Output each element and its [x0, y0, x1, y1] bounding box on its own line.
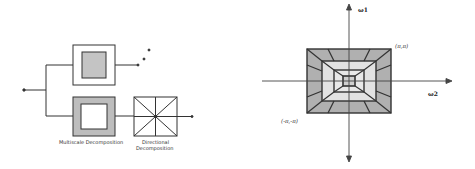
corner-label-bottom-left: (-π,-π) — [281, 118, 298, 124]
directional-filter-box — [134, 97, 192, 136]
filter-bank-diagram — [23, 45, 193, 136]
horizontal-arrowhead — [446, 79, 452, 84]
bandpass-filter-box — [73, 97, 115, 136]
vertical-arrowhead-down — [347, 156, 352, 162]
omega2-label: ω2 — [428, 90, 438, 97]
figure-canvas: Multiscale Decomposition Directional Dec… — [0, 0, 475, 169]
lowpass-output-node — [137, 64, 139, 66]
vertical-arrowhead-up — [347, 4, 352, 10]
directional-label-line2: Decomposition — [136, 145, 173, 152]
directional-output-node — [191, 116, 193, 118]
continuation-dots — [143, 49, 150, 60]
corner-label-top-right: (π,π) — [395, 43, 408, 49]
omega1-label: ω1 — [358, 6, 368, 13]
lowpass-filter-box — [73, 45, 115, 85]
multiscale-label: Multiscale Decomposition — [59, 139, 123, 146]
